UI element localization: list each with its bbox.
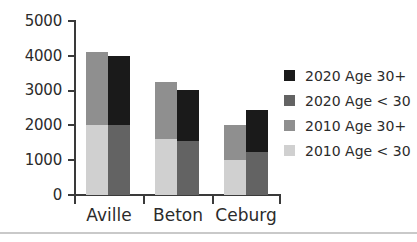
- bar-seg-2020-under30: [108, 125, 130, 195]
- legend-item-2010-age-30-plus: 2010 Age 30+: [284, 113, 417, 138]
- bar-seg-2020-30plus: [246, 110, 268, 152]
- y-tick-label-1000: 1000: [2, 153, 62, 168]
- legend-label-2020-age-under-30: 2020 Age < 30: [305, 94, 411, 108]
- legend-item-2010-age-under-30: 2010 Age < 30: [284, 138, 417, 163]
- legend-swatch-2010-age-under-30: [284, 145, 295, 156]
- x-tick-label-beton: Beton: [144, 207, 212, 224]
- bar-ceburg-2020: [246, 110, 268, 195]
- legend-label-2020-age-30-plus: 2020 Age 30+: [305, 69, 406, 83]
- chart-figure: 5000 4000 3000 2000 1000 0: [0, 0, 417, 242]
- bar-seg-2020-30plus: [177, 90, 199, 141]
- bar-seg-2020-under30: [177, 141, 199, 195]
- bottom-divider: [0, 232, 417, 234]
- legend-swatch-2020-age-under-30: [284, 95, 295, 106]
- bar-ceburg-2010: [224, 125, 246, 195]
- bar-seg-2020-30plus: [108, 56, 130, 125]
- legend-label-2010-age-30-plus: 2010 Age 30+: [305, 119, 406, 133]
- bar-aville-2020: [108, 56, 130, 195]
- x-tick-mark-0: [74, 196, 76, 204]
- y-tick-label-0: 0: [2, 188, 62, 203]
- x-tick-label-aville: Aville: [75, 207, 143, 224]
- y-tick-label-4000: 4000: [2, 49, 62, 64]
- plot-area: [75, 21, 280, 195]
- x-tick-mark-1: [143, 196, 145, 204]
- y-tick-label-2000: 2000: [2, 118, 62, 133]
- legend-swatch-2010-age-30-plus: [284, 120, 295, 131]
- bar-seg-2020-under30: [246, 152, 268, 195]
- legend-swatch-2020-age-30-plus: [284, 70, 295, 81]
- legend-item-2020-age-under-30: 2020 Age < 30: [284, 88, 417, 113]
- bar-seg-2010-under30: [155, 139, 177, 195]
- bar-seg-2010-under30: [224, 160, 246, 195]
- x-tick-label-ceburg: Ceburg: [212, 207, 280, 224]
- bar-seg-2010-under30: [86, 125, 108, 195]
- chart-legend: 2020 Age 30+ 2020 Age < 30 2010 Age 30+ …: [284, 63, 417, 163]
- legend-item-2020-age-30-plus: 2020 Age 30+: [284, 63, 417, 88]
- y-tick-label-5000: 5000: [2, 14, 62, 29]
- bar-aville-2010: [86, 52, 108, 195]
- bar-seg-2010-30plus: [224, 125, 246, 160]
- bar-seg-2010-30plus: [86, 52, 108, 125]
- y-tick-label-3000: 3000: [2, 83, 62, 98]
- bar-beton-2010: [155, 82, 177, 195]
- bar-seg-2010-30plus: [155, 82, 177, 139]
- x-tick-mark-2: [212, 196, 214, 204]
- x-tick-mark-3: [279, 196, 281, 204]
- bar-beton-2020: [177, 90, 199, 195]
- legend-label-2010-age-under-30: 2010 Age < 30: [305, 144, 411, 158]
